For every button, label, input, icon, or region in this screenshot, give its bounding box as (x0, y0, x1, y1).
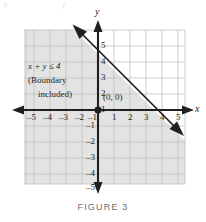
y-tick-label-3: 3 (101, 73, 106, 82)
y-axis-arrow-up (94, 20, 103, 32)
x-axis-arrow-right (182, 106, 194, 115)
x-tick-label-5: 5 (176, 113, 181, 122)
x-tick-label--2: –2 (75, 113, 84, 122)
y-tick-label-4: 4 (101, 57, 106, 66)
y-axis-label: y (95, 7, 99, 17)
y-tick-label--4: –4 (86, 169, 95, 178)
x-tick-label-1: 1 (112, 113, 117, 122)
inequality-label: x + y ≤ 4 (28, 62, 61, 71)
figure-3: y x x + y ≤ 4 (Boundary included) (0, 0)… (0, 0, 206, 222)
test-point-label: (0, 0) (103, 93, 123, 102)
y-tick-label-5: 5 (101, 41, 106, 50)
y-tick-label--1: –1 (86, 121, 95, 130)
figure-caption: FIGURE 3 (0, 202, 206, 212)
x-tick-label-4: 4 (160, 113, 165, 122)
y-tick-label--2: –2 (86, 137, 95, 146)
x-tick-label--3: –3 (59, 113, 68, 122)
y-tick-label-1: 1 (101, 105, 106, 114)
x-tick-label--5: –5 (27, 113, 36, 122)
boundary-note-line-2: included) (38, 90, 72, 99)
x-tick-label--4: –4 (43, 113, 52, 122)
x-axis-label: x (195, 104, 199, 114)
y-tick-label-2: 2 (101, 89, 106, 98)
x-tick-label-2: 2 (128, 113, 133, 122)
y-tick-label--3: –3 (86, 153, 95, 162)
boundary-note-line-1: (Boundary (28, 76, 67, 85)
x-tick-label-3: 3 (144, 113, 149, 122)
y-tick-label--5: –5 (86, 183, 95, 192)
x-axis-arrow-left (12, 106, 24, 115)
